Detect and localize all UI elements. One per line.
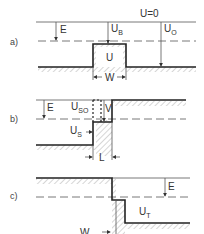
panel-b-label: b) [10, 114, 18, 124]
w-label: W [105, 72, 115, 83]
uo-label: UO [164, 23, 177, 36]
potential-diagram: a) U=0 E UB UO U W b) E [0, 0, 204, 234]
panel-c-label: c) [10, 191, 18, 201]
panel-c: c) E UT W [10, 178, 190, 234]
panel-a: a) U=0 E UB UO U W [10, 8, 196, 83]
e-label: E [47, 102, 54, 113]
us-label: US [70, 125, 82, 138]
ub-label: UB [111, 23, 123, 36]
v-label: V [105, 103, 112, 114]
e-label: E [168, 181, 175, 192]
panel-a-label: a) [10, 37, 18, 47]
ut-label: UT [139, 206, 151, 219]
w-label: W [80, 227, 90, 234]
e-label: E [60, 24, 67, 35]
panel-b: b) E USO V US L [10, 100, 186, 163]
zero-level-label: U=0 [140, 8, 159, 19]
l-label: L [99, 152, 105, 163]
barrier-u-label: U [106, 52, 113, 63]
uso-label: USO [71, 101, 89, 114]
metal-hatch [112, 101, 186, 106]
